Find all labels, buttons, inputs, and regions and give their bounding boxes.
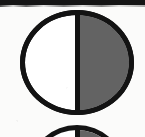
- figure-container: [0, 0, 145, 137]
- half-shaded-circle-cropped-icon: [31, 125, 123, 137]
- horizontal-rule-icon: [0, 0, 145, 5]
- circle-vertical-divider: [75, 10, 80, 115]
- circle-next-right-half-shaded: [77, 130, 118, 137]
- circle-right-half-shaded: [77, 15, 129, 110]
- circle-next-body: [31, 125, 123, 137]
- circle-next-vertical-divider: [75, 130, 80, 137]
- half-shaded-circle-icon: [20, 10, 134, 115]
